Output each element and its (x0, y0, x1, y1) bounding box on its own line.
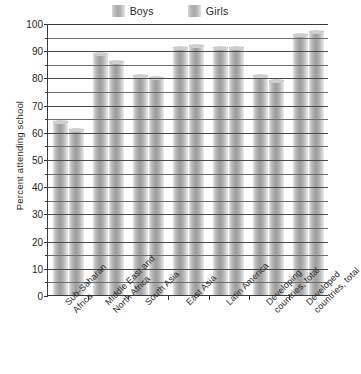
chart-legend: Boys Girls (0, 2, 340, 20)
legend-item-girls: Girls (188, 5, 229, 17)
y-tick-mark-minor-45 (45, 174, 48, 175)
x-tick-2 (128, 295, 129, 300)
gridline-minor-75 (48, 92, 328, 93)
legend-swatch-boys (112, 5, 125, 17)
y-tick-label-30: 30 (32, 209, 43, 220)
y-tick-mark-60 (44, 133, 48, 134)
y-tick-mark-30 (44, 214, 48, 215)
gridline-90 (48, 51, 328, 52)
gridline-60 (48, 133, 328, 134)
y-tick-label-40: 40 (32, 182, 43, 193)
y-tick-mark-10 (44, 269, 48, 270)
bar-boys-5 (253, 75, 268, 295)
legend-label-girls: Girls (206, 5, 229, 17)
y-tick-label-80: 80 (32, 73, 43, 84)
bar-girls-3 (189, 45, 204, 295)
y-tick-mark-80 (44, 78, 48, 79)
gridline-10 (48, 269, 328, 270)
gridline-minor-35 (48, 201, 328, 202)
y-tick-mark-minor-5 (45, 282, 48, 283)
gridline-minor-95 (48, 38, 328, 39)
y-tick-label-50: 50 (32, 155, 43, 166)
y-tick-label-20: 20 (32, 236, 43, 247)
y-tick-mark-100 (44, 24, 48, 25)
legend-label-boys: Boys (130, 5, 154, 17)
bar-girls-0 (69, 129, 84, 295)
y-tick-label-60: 60 (32, 127, 43, 138)
gridline-minor-5 (48, 282, 328, 283)
y-tick-label-90: 90 (32, 46, 43, 57)
gridline-80 (48, 78, 328, 79)
bar-boys-4 (213, 47, 228, 295)
y-tick-mark-minor-65 (45, 119, 48, 120)
gridline-50 (48, 160, 328, 161)
x-tick-3 (168, 295, 169, 300)
y-tick-mark-20 (44, 242, 48, 243)
y-tick-mark-50 (44, 160, 48, 161)
y-tick-mark-70 (44, 106, 48, 107)
y-tick-mark-minor-95 (45, 38, 48, 39)
gridline-20 (48, 242, 328, 243)
bar-girls-1 (109, 61, 124, 295)
x-tick-5 (249, 295, 250, 300)
y-tick-mark-90 (44, 51, 48, 52)
legend-swatch-girls (188, 5, 201, 17)
y-tick-mark-minor-55 (45, 146, 48, 147)
gridline-70 (48, 106, 328, 107)
gridline-minor-55 (48, 146, 328, 147)
plot-area: 0102030405060708090100 (47, 24, 328, 296)
gridline-minor-15 (48, 255, 328, 256)
y-tick-mark-0 (44, 296, 48, 297)
y-tick-label-0: 0 (37, 291, 43, 302)
y-axis-title: Percent attending school (14, 51, 25, 261)
y-tick-mark-minor-75 (45, 92, 48, 93)
y-tick-label-100: 100 (26, 19, 43, 30)
y-tick-mark-minor-25 (45, 228, 48, 229)
gridline-minor-85 (48, 65, 328, 66)
x-tick-4 (209, 295, 210, 300)
gridline-40 (48, 187, 328, 188)
legend-item-boys: Boys (112, 5, 154, 17)
bar-boys-2 (133, 75, 148, 295)
y-tick-label-10: 10 (32, 263, 43, 274)
x-tick-1 (88, 295, 89, 300)
gridline-minor-25 (48, 228, 328, 229)
y-tick-mark-minor-35 (45, 201, 48, 202)
y-tick-mark-minor-15 (45, 255, 48, 256)
bar-girls-4 (229, 47, 244, 295)
y-tick-label-70: 70 (32, 100, 43, 111)
y-tick-mark-minor-85 (45, 65, 48, 66)
gridline-30 (48, 214, 328, 215)
gridline-minor-45 (48, 174, 328, 175)
gridline-minor-65 (48, 119, 328, 120)
y-tick-mark-40 (44, 187, 48, 188)
x-tick-6 (289, 295, 290, 300)
bar-boys-3 (173, 47, 188, 295)
